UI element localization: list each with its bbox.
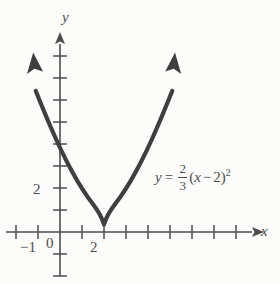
curve-right-arrowhead xyxy=(165,53,181,75)
equation-minus-sign: − xyxy=(203,169,211,186)
curve-left-arrowhead xyxy=(27,53,43,75)
origin-label: 0 xyxy=(46,236,54,251)
parabola-figure: y x 2 −1 0 2 y = 2 3 ( x − 2 ) 2 xyxy=(0,0,280,284)
axes-group xyxy=(6,32,264,276)
x-axis-label: x xyxy=(261,224,268,239)
y-axis-label: y xyxy=(62,10,69,25)
fraction-numerator: 2 xyxy=(178,162,187,176)
x-tick-label-minus-1: −1 xyxy=(20,240,36,255)
y-tick-label-2: 2 xyxy=(33,182,41,197)
equation-constant: 2 xyxy=(213,169,221,186)
parabola-curve-group xyxy=(27,53,181,225)
equation-fraction: 2 3 xyxy=(178,162,187,192)
fraction-denominator: 3 xyxy=(178,179,187,193)
equation-equals-sign: = xyxy=(165,169,173,186)
equation-annotation: y = 2 3 ( x − 2 ) 2 xyxy=(155,162,231,192)
equation-exponent: 2 xyxy=(226,167,231,178)
plot-canvas xyxy=(0,0,280,284)
parabola-curve xyxy=(36,91,172,225)
y-axis-arrowhead xyxy=(55,32,65,44)
equation-variable: x xyxy=(194,169,201,186)
equation-lhs: y xyxy=(155,169,162,186)
x-tick-label-2: 2 xyxy=(90,240,98,255)
